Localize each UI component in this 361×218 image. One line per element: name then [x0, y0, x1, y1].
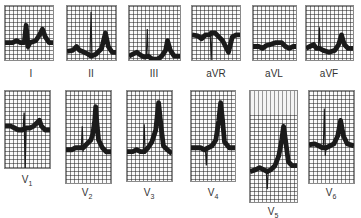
lead-label-avr: aVR	[196, 68, 236, 79]
ecg-strip-lead-i	[4, 5, 54, 61]
ecg-strip-lead-v5	[249, 90, 298, 203]
ecg-strip-lead-iii	[128, 5, 181, 61]
lead-label-v2: V2	[67, 187, 107, 202]
lead-label-v4-sub: 4	[214, 193, 218, 200]
ecg-strip-lead-v2	[65, 90, 112, 184]
ecg-trace-lead-iii	[129, 6, 180, 60]
lead-label-v2-sub: 2	[88, 193, 92, 200]
ecg-trace-lead-v6	[309, 91, 354, 183]
lead-label-v4: V4	[193, 187, 233, 202]
ecg-strip-lead-avf	[305, 5, 354, 61]
ecg-trace-lead-v3	[127, 91, 172, 181]
lead-label-v6-sub: 6	[332, 193, 336, 200]
ecg-trace-lead-v5	[250, 91, 297, 202]
ecg-strip-lead-v3	[126, 90, 173, 182]
ecg-strip-lead-ii	[66, 5, 117, 61]
ecg-strip-lead-avl	[252, 5, 297, 61]
lead-label-avf: aVF	[309, 68, 349, 79]
ecg-trace-lead-v4	[191, 91, 235, 181]
ecg-trace-lead-v2	[66, 91, 111, 183]
ecg-trace-lead-ii	[67, 6, 116, 60]
lead-label-v3-sub: 3	[150, 193, 154, 200]
lead-label-i: I	[11, 68, 51, 79]
ecg-strip-lead-avr	[191, 5, 241, 61]
ecg-strip-lead-v1	[4, 90, 51, 169]
lead-label-iii: III	[134, 68, 174, 79]
lead-label-v5-sub: 5	[274, 212, 278, 218]
ecg-trace-lead-avl	[253, 6, 296, 60]
lead-label-v1-sub: 1	[28, 180, 32, 187]
ecg-strip-lead-v4	[190, 90, 236, 182]
lead-label-v1: V1	[7, 174, 47, 189]
lead-label-v6: V6	[311, 187, 351, 202]
lead-label-v3: V3	[129, 187, 169, 202]
ecg-trace-lead-avf	[306, 6, 353, 60]
lead-label-ii: II	[71, 68, 111, 79]
ecg-trace-lead-v1	[5, 91, 50, 168]
ecg-strip-lead-v6	[308, 90, 355, 184]
lead-label-v5: V5	[253, 206, 293, 218]
ecg-trace-lead-i	[5, 6, 53, 60]
lead-label-avl: aVL	[254, 68, 294, 79]
ecg-trace-lead-avr	[192, 6, 240, 60]
